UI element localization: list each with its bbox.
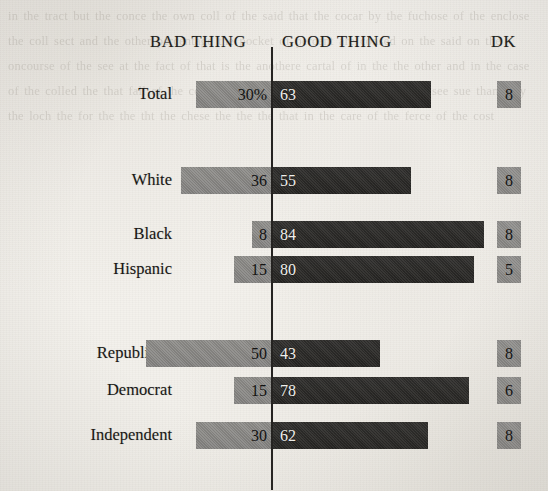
- bar-bad-thing: 50: [146, 340, 272, 367]
- bar-value-bad: 15: [251, 259, 267, 280]
- bar-good-thing: 43: [272, 340, 380, 367]
- bar-value-bad: 36: [251, 170, 267, 191]
- bar-bad-thing: 36: [181, 167, 272, 194]
- diverging-bar-chart: BAD THING GOOD THING DK Total30%638White…: [0, 0, 548, 491]
- bar-value-bad: 8: [259, 224, 267, 245]
- row-label: Total: [0, 84, 172, 104]
- row-label: Black: [0, 224, 172, 244]
- bar-good-thing: 63: [272, 81, 431, 108]
- row-label: Hispanic: [0, 259, 172, 279]
- bar-value-good: 84: [280, 224, 296, 245]
- bar-value-bad: 30%: [238, 84, 267, 105]
- bar-value-bad: 30: [251, 425, 267, 446]
- dk-value-box: 6: [497, 377, 521, 404]
- center-axis-line: [271, 47, 273, 490]
- bar-good-thing: 84: [272, 221, 484, 248]
- bar-value-good: 78: [280, 380, 296, 401]
- dk-value-box: 8: [497, 221, 521, 248]
- bar-value-bad: 50: [251, 343, 267, 364]
- bar-value-good: 55: [280, 170, 296, 191]
- bar-value-good: 43: [280, 343, 296, 364]
- bar-bad-thing: 8: [252, 221, 272, 248]
- row-label: Independent: [0, 425, 172, 445]
- dk-value-box: 8: [497, 167, 521, 194]
- legend-header-bad-thing: BAD THING: [150, 32, 246, 52]
- bar-value-bad: 15: [251, 380, 267, 401]
- dk-value-box: 8: [497, 422, 521, 449]
- bar-good-thing: 78: [272, 377, 469, 404]
- row-label: White: [0, 170, 172, 190]
- bar-good-thing: 80: [272, 256, 474, 283]
- dk-value-box: 8: [497, 340, 521, 367]
- legend-header-dk: DK: [491, 32, 516, 52]
- bar-bad-thing: 15: [234, 256, 272, 283]
- bar-bad-thing: 30: [196, 422, 272, 449]
- bar-value-good: 63: [280, 84, 296, 105]
- dk-value-box: 5: [497, 256, 521, 283]
- bar-bad-thing: 15: [234, 377, 272, 404]
- bar-good-thing: 62: [272, 422, 428, 449]
- bar-bad-thing: 30%: [196, 81, 272, 108]
- bar-value-good: 62: [280, 425, 296, 446]
- legend-header-good-thing: GOOD THING: [282, 32, 392, 52]
- bar-good-thing: 55: [272, 167, 411, 194]
- row-label: Democrat: [0, 380, 172, 400]
- bar-value-good: 80: [280, 259, 296, 280]
- dk-value-box: 8: [497, 81, 521, 108]
